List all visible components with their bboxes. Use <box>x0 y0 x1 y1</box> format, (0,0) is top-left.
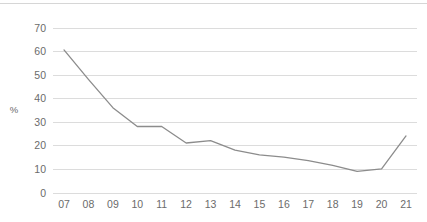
y-axis-tick-label: 40 <box>22 93 46 104</box>
x-axis-tick-label: 19 <box>345 198 369 210</box>
y-axis-tick-label: 20 <box>22 140 46 151</box>
gridline <box>53 193 417 194</box>
y-axis-tick-label: 60 <box>22 46 46 57</box>
gridline <box>53 98 417 99</box>
x-axis-tick-label: 09 <box>101 198 125 210</box>
x-axis-tick-label: 20 <box>370 198 394 210</box>
x-axis-tick-label: 11 <box>150 198 174 210</box>
gridline <box>53 51 417 52</box>
y-axis-tick-label: 50 <box>22 69 46 80</box>
y-axis-title: % <box>6 104 22 116</box>
x-axis-tick-label: 16 <box>272 198 296 210</box>
y-axis-tick-label: 10 <box>22 163 46 174</box>
gridline <box>53 28 417 29</box>
line-chart: % 010203040506070 0708091011121314151617… <box>0 0 427 222</box>
x-axis-tick-label: 13 <box>199 198 223 210</box>
series-line-path <box>64 50 406 171</box>
y-axis-tick-label: 30 <box>22 116 46 127</box>
x-axis-tick-label: 12 <box>174 198 198 210</box>
gridline <box>53 75 417 76</box>
y-axis-tick-label: 70 <box>22 22 46 33</box>
x-axis-tick-label: 17 <box>296 198 320 210</box>
x-axis-tick-label: 10 <box>125 198 149 210</box>
x-axis-tick-label: 07 <box>52 198 76 210</box>
x-axis-tick-label: 21 <box>394 198 418 210</box>
gridline <box>53 122 417 123</box>
y-axis-tick-label: 0 <box>22 187 46 198</box>
gridline <box>53 169 417 170</box>
x-axis-tick-label: 18 <box>321 198 345 210</box>
plot-area <box>0 0 427 222</box>
top-border-rule <box>0 3 427 4</box>
x-axis-tick-label: 14 <box>223 198 247 210</box>
x-axis-tick-label: 08 <box>76 198 100 210</box>
gridline <box>53 145 417 146</box>
x-axis-tick-label: 15 <box>247 198 271 210</box>
